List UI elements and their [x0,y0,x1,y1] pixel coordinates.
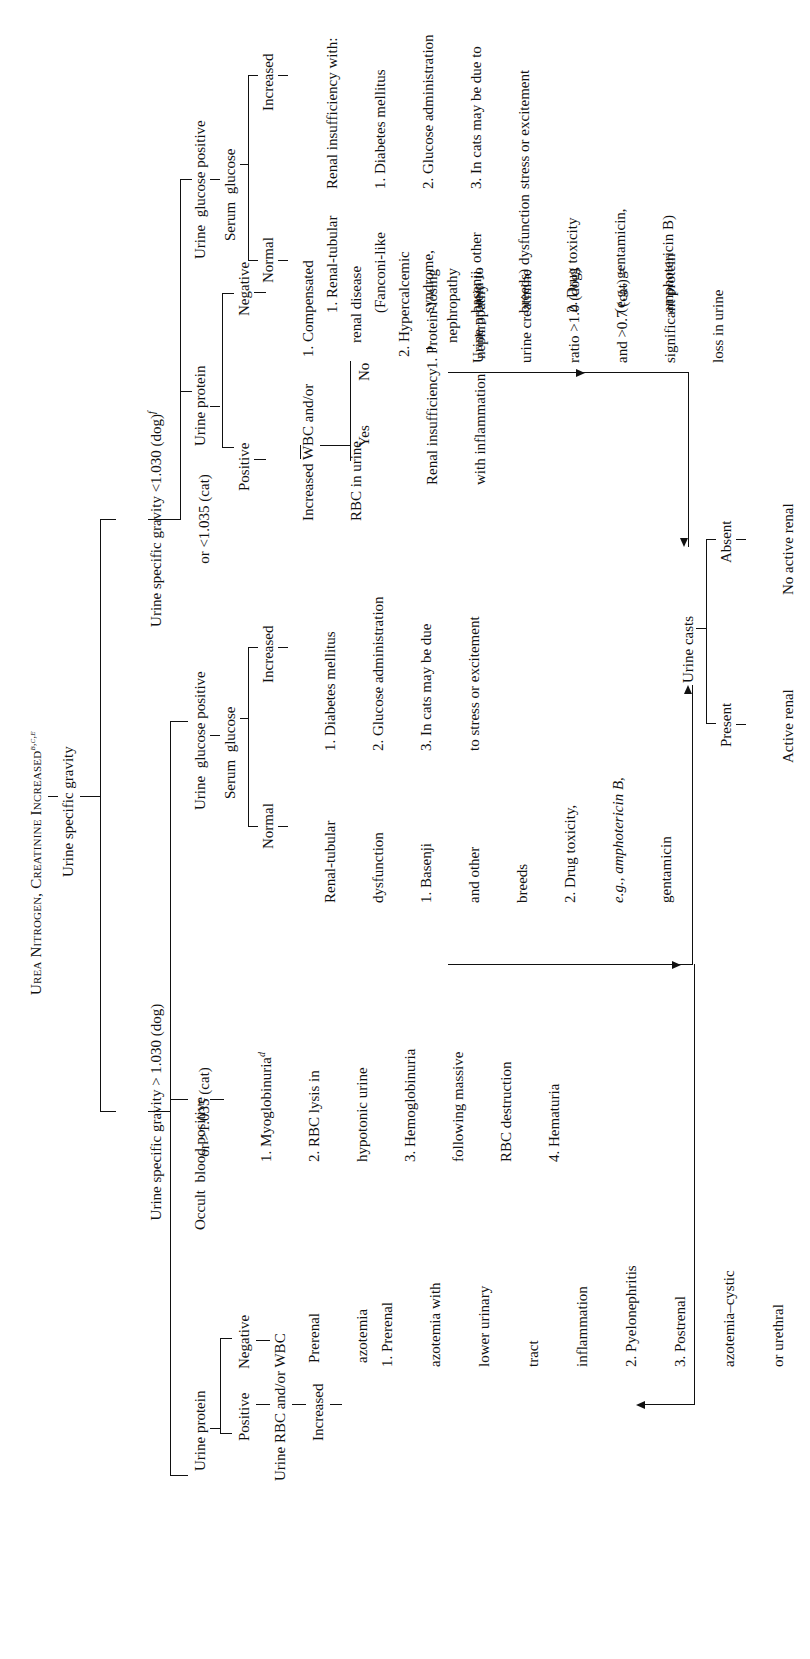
connector [100,519,116,520]
connector [222,293,234,294]
list-high-glucose-increased-causes: 1. Diabetes mellitus 2. Glucose administ… [290,596,514,751]
connector [48,796,58,797]
connector [222,447,234,448]
flow-line-prerenal-to-casts [694,964,695,1405]
connector [148,1111,170,1112]
node-high-protein-positive: Positive [236,1393,252,1441]
node-low-urine-glucose: Urine glucose positive [192,120,208,259]
connector [210,406,220,407]
connector [248,647,258,648]
connector [292,1404,306,1405]
flow-line-inflammation-to-casts [688,372,689,547]
arrow-up-icon [636,1401,645,1409]
connector [256,1340,270,1341]
chart-title: Urea Nitrogen, Creatinine Increasedb,c,e [28,731,44,995]
node-low-urine-protein: Urine protein [192,366,208,446]
flow-line-prerenal-to-casts [640,1404,694,1405]
connector [170,1099,188,1100]
node-urine-casts: Urine casts [680,616,696,683]
connector [330,1404,342,1405]
connector [210,179,220,180]
node-rbc-wbc-increased: Increased [310,1384,326,1441]
result-renal-insufficiency-inflammation: Renal insufficiency with inflammation [392,375,520,485]
connector [256,1404,270,1405]
list-high-protein-positive-causes: 1. Prerenal azotemia with lower urinary … [346,1265,810,1367]
result-no-active-tubule-damage: No active renal tubule damage [748,503,810,595]
node-low-glucose-normal: Normal [260,237,276,283]
result-prerenal-azotemia: Prerenal azotemia [274,1309,402,1363]
connector [248,647,249,827]
arrow-right-icon [684,685,692,694]
connector [736,539,746,540]
connector [210,735,220,736]
connector [170,721,188,722]
flow-line-inflammation-to-casts [448,372,688,373]
connector [248,260,258,261]
node-high-glucose-normal: Normal [260,803,276,849]
connector [220,1338,232,1339]
node-low-protein-negative: Negative [236,262,252,316]
node-occult-blood-positive: Occult blood positive [192,1097,208,1230]
connector [320,445,350,446]
connector [222,293,223,448]
node-low-serum-glucose: Serum glucose [222,149,238,241]
node-high-glucose-increased: Increased [260,626,276,683]
node-high-protein-negative: Negative [236,1315,252,1369]
arrow-down-icon [672,961,681,969]
result-active-tubule-damage: Active renal tubule damage [748,681,810,769]
connector [706,539,707,724]
flow-line-tubular-to-casts [448,964,692,965]
node-high-serum-glucose: Serum glucose [222,707,238,799]
connector [170,519,180,520]
node-no: No [356,363,372,381]
connector [248,75,249,261]
connector [100,1111,116,1112]
connector [180,179,181,392]
node-casts-absent: Absent [718,521,734,564]
node-urine-specific-gravity: Urine specific gravity [60,746,76,877]
connector [80,796,100,797]
connector [220,1433,232,1434]
arrow-left-icon [680,538,688,547]
node-low-protein-positive: Positive [236,443,252,491]
arrow-down-icon [576,369,585,377]
connector [278,260,288,261]
connector [736,724,746,725]
connector [254,292,266,293]
connector [210,1428,220,1429]
flow-line-to-casts [692,685,693,965]
connector [220,1338,221,1434]
connector [706,723,716,724]
connector [706,539,716,540]
connector [254,459,266,460]
connector [210,1099,224,1100]
list-low-glucose-normal-causes: 1. Renal-tubular (Fanconi-like syndrome,… [292,194,708,313]
connector [300,445,301,459]
connector [170,1475,188,1476]
connector [100,520,101,1112]
connector [248,826,258,827]
connector [696,628,706,629]
connector [278,647,288,648]
connector [148,519,170,520]
list-occult-blood-causes: 1. Myoglobinuriad 2. RBC lysis in hypoto… [226,1049,594,1162]
list-low-glucose-increased-causes: Renal insufficiency with: 1. Diabetes me… [292,34,564,189]
connector [180,392,181,520]
connector [180,391,192,392]
connector [180,179,192,180]
flowchart-canvas: Urea Nitrogen, Creatinine Increasedb,c,e… [0,0,810,1659]
list-high-glucose-normal-causes: Renal-tubular dysfunction 1. Basenji and… [290,777,706,903]
connector [278,75,288,76]
node-yes: Yes [356,425,372,447]
connector [350,361,351,461]
node-increased-wbc-rbc: Increased WBC and/or RBC in urine [268,384,396,521]
connector [248,75,258,76]
connector [240,164,248,165]
node-low-glucose-increased: Increased [260,54,276,111]
node-high-sg: Urine specific gravity > 1.030 (dog) or … [116,917,244,1307]
node-casts-present: Present [718,703,734,747]
node-high-urine-protein: Urine protein [192,1391,208,1471]
connector [278,826,288,827]
